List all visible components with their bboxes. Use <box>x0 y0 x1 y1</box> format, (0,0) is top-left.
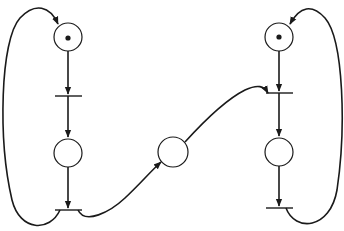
place-p2 <box>54 139 82 167</box>
arc-t2-p3 <box>78 162 161 217</box>
place-p5 <box>265 138 293 166</box>
petri-net-diagram <box>0 0 344 231</box>
arc-p3-t3 <box>185 86 268 142</box>
token-icon <box>276 34 281 39</box>
arc-t4-p4-loop <box>286 9 342 224</box>
arc-t2-p1-loop <box>3 8 60 225</box>
token-icon <box>65 35 70 40</box>
place-p3 <box>158 137 188 167</box>
